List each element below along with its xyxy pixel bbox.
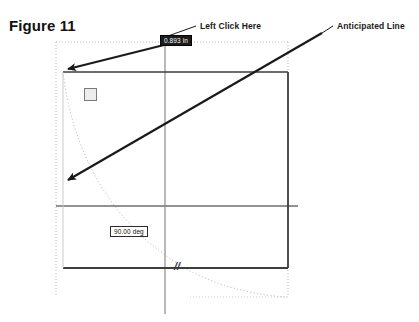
callout-left-click-here: Left Click Here — [200, 21, 261, 31]
leader-anticipated-line — [68, 26, 333, 180]
dimension-angle[interactable]: 90.00 deg — [110, 226, 148, 237]
parallel-marker-glyph[interactable]: // — [174, 261, 180, 272]
figure-canvas: Figure 11 Left Click Here Anticipated Li… — [0, 0, 419, 322]
sketch-rectangle[interactable] — [63, 72, 288, 268]
leader-left-click-here — [68, 26, 196, 69]
construction-boundary — [56, 42, 288, 297]
parallel-constraint-icon[interactable] — [84, 88, 97, 101]
page-title: Figure 11 — [9, 17, 76, 34]
callout-anticipated-line: Anticipated Line — [337, 21, 405, 31]
dimension-length-selected[interactable]: 0.893 in — [160, 35, 192, 46]
cad-sketch-drawing — [0, 0, 419, 322]
sketch-axes — [56, 40, 298, 314]
